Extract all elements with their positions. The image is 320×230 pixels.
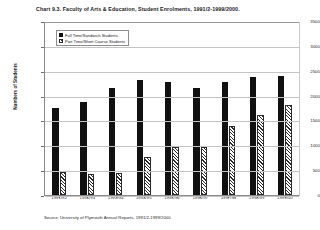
y-axis-tick-mark — [41, 72, 44, 73]
bar-group: 1992/93 — [73, 22, 101, 195]
y-axis-tick-mark — [41, 97, 44, 98]
legend-swatch-part-time — [59, 39, 63, 43]
bar-part-time[interactable] — [88, 174, 94, 195]
gridline — [45, 97, 299, 98]
bar-group: 1996/97 — [186, 22, 214, 195]
bar-group: 1998/99 — [243, 22, 271, 195]
bar-full-time[interactable] — [109, 88, 115, 195]
gridline — [45, 146, 299, 147]
legend-label: Full Time/Sandwich Students — [65, 33, 118, 38]
bar-group: 1993/94 — [101, 22, 129, 195]
chart-legend: Full Time/Sandwich StudentsPart Time/Sho… — [56, 30, 129, 46]
bar-part-time[interactable] — [144, 157, 150, 195]
bar-part-time[interactable] — [229, 126, 235, 195]
gridline — [45, 171, 299, 172]
legend-item[interactable]: Part Time/Short Course Students — [59, 39, 125, 44]
bar-group: 1994/95 — [130, 22, 158, 195]
bar-part-time[interactable] — [60, 172, 66, 195]
source-note: Source: University of Plymouth Annual Re… — [44, 215, 171, 220]
y-axis-tick-label: 1000 — [282, 144, 320, 149]
legend-item[interactable]: Full Time/Sandwich Students — [59, 33, 125, 38]
gridline — [45, 196, 299, 197]
bar-group: 1995/96 — [158, 22, 186, 195]
bar-full-time[interactable] — [222, 82, 228, 195]
y-axis-tick-label: 1500 — [282, 119, 320, 124]
gridline — [45, 121, 299, 122]
gridline — [45, 72, 299, 73]
bar-full-time[interactable] — [165, 82, 171, 195]
y-axis-tick-mark — [41, 146, 44, 147]
y-axis-tick-label: 3000 — [282, 44, 320, 49]
chart-title: Chart 9.3. Faculty of Arts & Education, … — [36, 6, 296, 12]
bar-full-time[interactable] — [193, 88, 199, 195]
y-axis-tick-mark — [41, 47, 44, 48]
plot-area: 1991/921992/931993/941994/951995/961996/… — [44, 22, 300, 196]
y-axis-tick-mark — [41, 121, 44, 122]
y-axis-tick-label: 0 — [282, 193, 320, 198]
gridline — [45, 47, 299, 48]
bar-full-time[interactable] — [80, 102, 86, 195]
y-axis-tick-mark — [41, 196, 44, 197]
y-axis-label: Numbers of Students — [13, 57, 18, 117]
bar-groups: 1991/921992/931993/941994/951995/961996/… — [45, 22, 299, 195]
gridline — [45, 22, 299, 23]
bar-group: 1997/98 — [214, 22, 242, 195]
bar-part-time[interactable] — [116, 173, 122, 195]
bar-group: 1991/92 — [45, 22, 73, 195]
bar-full-time[interactable] — [250, 77, 256, 195]
y-axis-tick-label: 2500 — [282, 69, 320, 74]
chart-container: Chart 9.3. Faculty of Arts & Education, … — [0, 0, 320, 230]
y-axis-tick-label: 2000 — [282, 94, 320, 99]
y-axis-tick-label: 3500 — [282, 19, 320, 24]
legend-label: Part Time/Short Course Students — [65, 39, 125, 44]
bar-part-time[interactable] — [257, 115, 263, 195]
y-axis-tick-mark — [41, 171, 44, 172]
legend-swatch-full-time — [59, 33, 63, 37]
y-axis-tick-mark — [41, 22, 44, 23]
y-axis-tick-label: 500 — [282, 169, 320, 174]
